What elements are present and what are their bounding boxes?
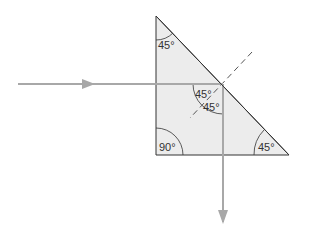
angle-label-reflection: 45° (203, 101, 220, 113)
prism-diagram: 45° 90° 45° 45° 45° (0, 0, 311, 238)
angle-label-bottom-right: 45° (258, 141, 275, 153)
reflected-arrow-icon (218, 210, 228, 224)
angle-label-top: 45° (158, 39, 175, 51)
angle-label-right-angle: 90° (159, 141, 176, 153)
incident-arrow-icon (82, 79, 95, 89)
